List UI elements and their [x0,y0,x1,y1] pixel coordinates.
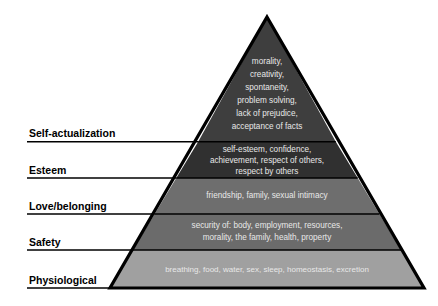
tier-content-line: morality, [252,57,282,66]
tier-label-physiological: Physiological [29,274,97,286]
tier-content-line: morality, the family, health, property [203,233,332,242]
tier-content-line: spontaneity, [245,83,289,92]
tier-content-line: breathing, food, water, sex, sleep, home… [165,265,369,274]
tier-label-love-belonging: Love/belonging [29,200,107,212]
tier-content-line: self-esteem, confidence, [223,145,312,154]
tier-label-safety: Safety [29,236,61,248]
tier-content-line: achievement, respect of others, [210,156,324,165]
tier-label-self-actualization: Self-actualization [29,127,115,139]
tier-label-esteem: Esteem [29,164,66,176]
tier-content-line: problem solving, [237,96,297,105]
tier-content-love-belonging: friendship, family, sexual intimacy [206,191,328,200]
tier-content-line: acceptance of facts [232,122,303,131]
tier-shape-safety [133,214,401,250]
tier-content-line: security of: body, employment, resources… [192,221,343,230]
tier-content-line: creativity, [250,70,284,79]
tier-content-line: lack of prejudice, [236,109,297,118]
maslow-pyramid-diagram: Self-actualization Esteem Love/belonging… [0,0,438,306]
tier-content-physiological: breathing, food, water, sex, sleep, home… [165,265,369,274]
tier-content-line: respect by others [236,167,299,176]
pyramid-svg: Self-actualization Esteem Love/belonging… [0,0,438,306]
tier-content-line: friendship, family, sexual intimacy [206,191,328,200]
